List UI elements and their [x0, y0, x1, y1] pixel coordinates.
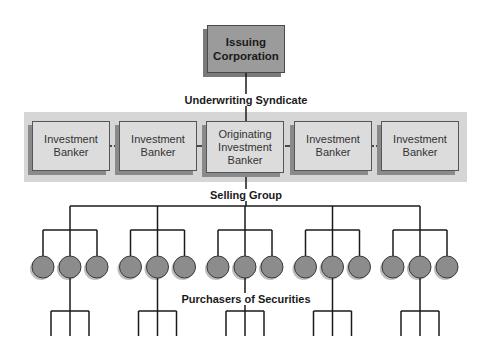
underwriting-syndicate-label: Underwriting Syndicate — [183, 94, 310, 106]
banker-4-line2: Banker — [306, 146, 360, 159]
investment-banker-box-4: InvestmentBanker — [294, 121, 372, 171]
dealer-circle — [322, 256, 344, 278]
investment-banker-box-2: InvestmentBanker — [119, 121, 197, 171]
dealer-circle — [59, 256, 81, 278]
banker-2-line2: Banker — [131, 146, 185, 159]
dealer-circle — [409, 256, 431, 278]
banker-3-line2: Investment — [218, 141, 272, 154]
banker-2-line1: Investment — [131, 133, 185, 146]
dealer-circle — [382, 256, 404, 278]
originating-investment-banker-box: OriginatingInvestmentBanker — [206, 121, 284, 173]
banker-1-line2: Banker — [44, 146, 98, 159]
banker-5-line1: Investment — [393, 133, 447, 146]
dealer-circle — [295, 256, 317, 278]
dealer-circle — [32, 256, 54, 278]
dealer-circle — [86, 256, 108, 278]
selling-group-tree — [30, 206, 458, 336]
selling-group-label: Selling Group — [208, 189, 284, 201]
investment-banker-box-1: InvestmentBanker — [32, 121, 110, 171]
purchasers-label: Purchasers of Securities — [179, 293, 312, 305]
dealer-circle — [147, 256, 169, 278]
dealer-circle — [207, 256, 229, 278]
dealer-circle — [120, 256, 142, 278]
investment-banker-box-5: InvestmentBanker — [381, 121, 459, 171]
dealer-circle — [234, 256, 256, 278]
banker-5-line2: Banker — [393, 146, 447, 159]
banker-3-line3: Banker — [218, 154, 272, 167]
banker-4-line1: Investment — [306, 133, 360, 146]
dealer-circle — [261, 256, 283, 278]
dealer-circle — [436, 256, 458, 278]
dealer-circle — [349, 256, 371, 278]
dealer-circle — [174, 256, 196, 278]
banker-3-line1: Originating — [218, 128, 272, 141]
banker-1-line1: Investment — [44, 133, 98, 146]
